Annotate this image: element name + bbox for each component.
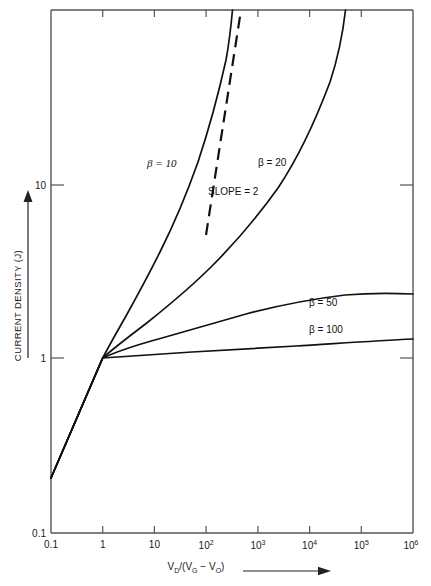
- curve-beta-20: [51, 10, 346, 478]
- plot-area: [0, 0, 431, 586]
- y-tick-label-2: 10: [14, 180, 46, 191]
- y-tick-marks: [51, 185, 64, 358]
- slope-annotation-label: SLOPE = 2: [208, 186, 258, 197]
- curve-label-beta-100: β = 100: [309, 324, 343, 335]
- x-axis-label: VD/(VG − VO): [168, 561, 225, 574]
- x-tick-label-0: 0.1: [44, 539, 58, 550]
- curve-beta-100: [51, 339, 413, 478]
- x-tick-marks: [103, 526, 362, 533]
- x-tick-label-5: 104: [302, 539, 317, 551]
- x-tick-label-4: 103: [250, 539, 265, 551]
- y-tick-label-1: 1: [14, 353, 46, 364]
- x-tick-label-3: 102: [199, 539, 214, 551]
- y-tick-marks-right: [400, 185, 413, 358]
- curve-label-beta-50: β = 50: [309, 297, 337, 308]
- curve-label-beta-10: β = 10: [147, 157, 176, 169]
- x-tick-label-6: 105: [354, 539, 369, 551]
- curve-beta-50: [51, 293, 413, 478]
- x-tick-label-1: 1: [100, 539, 106, 550]
- x-axis-arrow-icon: [243, 565, 331, 577]
- curve-beta-10: [51, 10, 233, 478]
- curve-label-beta-20: β = 20: [258, 157, 286, 168]
- y-axis-arrow-icon: [21, 190, 35, 360]
- x-tick-label-7: 106: [403, 539, 418, 551]
- chart-figure: CURRENT DENSITY (J) 0.1 1 10 0.1 1 10 10…: [0, 0, 431, 586]
- x-tick-label-2: 10: [149, 539, 160, 550]
- slope-reference-dashed: [206, 10, 241, 235]
- y-tick-label-0: 0.1: [14, 528, 46, 539]
